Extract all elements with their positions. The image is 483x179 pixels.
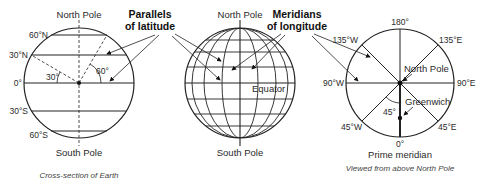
parallels-callout: Parallels of latitude <box>107 8 221 81</box>
longitude-label-90w: 90°W <box>323 78 344 88</box>
parallels-label-line2: of latitude <box>125 20 175 32</box>
meridians-label-line1: Meridians <box>272 8 321 20</box>
globe-south-pole-label: South Pole <box>217 147 263 158</box>
arrow-to-equator <box>110 35 159 81</box>
latitude-longitude-diagram: North Pole South Pole 60°N 30°N 0° 30°S … <box>0 0 483 179</box>
north-pole-label: North Pole <box>57 9 102 20</box>
angle-arc-45 <box>386 97 400 103</box>
arrow-to-30n <box>107 35 155 54</box>
equator-label: Equator <box>252 83 285 94</box>
meridians-label-line2: of longitude <box>267 20 327 32</box>
greenwich-arrow <box>404 107 413 115</box>
parallels-label-line1: Parallels <box>128 8 171 20</box>
earth-center-dot <box>77 81 81 85</box>
greenwich-dot <box>398 116 402 120</box>
angle-label-60: 60° <box>96 66 109 76</box>
longitude-label-45e: 45°E <box>438 122 457 132</box>
longitude-label-135w: 135°W <box>332 35 358 45</box>
south-pole-label: South Pole <box>56 147 102 158</box>
globe-north-pole-label: North Pole <box>218 9 263 20</box>
longitude-label-90e: 90°E <box>457 78 476 88</box>
longitude-label-180: 180° <box>391 17 409 27</box>
arrow-to-globe-parallel-2 <box>172 36 220 80</box>
greenwich-label: Greenwich <box>405 96 450 107</box>
north-pole-dot <box>398 81 403 86</box>
latitude-label-60s: 60°S <box>29 130 48 140</box>
angle-label-45: 45° <box>383 107 396 117</box>
polar-view-caption: Viewed from above North Pole <box>346 164 455 173</box>
polar-north-pole-label: North Pole <box>404 63 449 74</box>
longitude-label-135e: 135°E <box>439 35 463 45</box>
latitude-label-30s: 30°S <box>9 106 28 116</box>
latitude-label-30n: 30°N <box>9 50 28 60</box>
prime-meridian-label: Prime meridian <box>368 149 432 160</box>
latitude-label-60n: 60°N <box>29 30 48 40</box>
longitude-label-45w: 45°W <box>341 122 362 132</box>
latitude-label-0: 0° <box>14 78 22 88</box>
longitude-label-0: 0° <box>396 139 404 149</box>
cross-section-diagram: North Pole South Pole 60°N 30°N 0° 30°S … <box>9 9 134 179</box>
polar-view-diagram: 180° 135°W 135°E 90°W 90°E 45°W 45°E 0° … <box>323 17 476 173</box>
angle-label-30: 30° <box>46 72 59 82</box>
cross-section-caption: Cross-section of Earth <box>39 171 119 179</box>
